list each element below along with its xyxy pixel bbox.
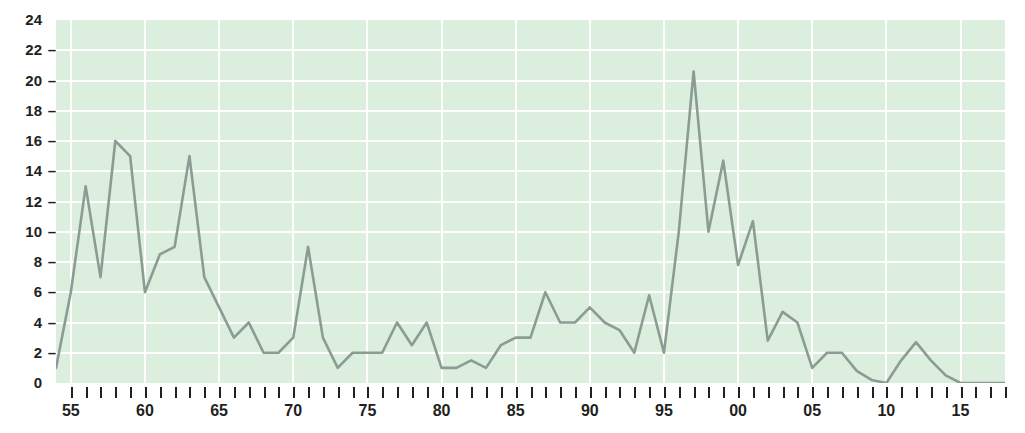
x-axis-tick-label: 85	[496, 402, 536, 420]
y-tick-mark: –	[42, 254, 56, 270]
x-axis-tick-label: 90	[570, 402, 610, 420]
x-axis-tick	[160, 387, 162, 398]
x-axis-tick	[679, 387, 681, 398]
x-axis-tick	[175, 387, 177, 398]
x-axis-tick	[931, 387, 933, 398]
x-axis-tick	[397, 387, 399, 398]
y-tick-mark: –	[42, 42, 56, 58]
x-axis-tick-label: 15	[941, 402, 981, 420]
x-axis-tick	[130, 387, 132, 398]
x-axis-tick	[471, 387, 473, 398]
y-tick-value: 20	[25, 73, 42, 89]
x-axis-tick	[145, 387, 147, 398]
y-axis-tick-label: 2–	[0, 345, 56, 361]
x-axis-tick	[204, 387, 206, 398]
y-tick-value: 10	[25, 224, 42, 240]
y-tick-value: 14	[25, 163, 42, 179]
x-axis-tick	[946, 387, 948, 398]
y-tick-mark: –	[42, 194, 56, 210]
y-tick-value: 4	[34, 315, 42, 331]
x-axis-tick	[531, 387, 533, 398]
y-tick-value: 6	[34, 284, 42, 300]
x-axis-tick-label: 55	[51, 402, 91, 420]
x-axis: 55606570758085909500051015	[0, 383, 1025, 433]
x-axis-tick	[412, 387, 414, 398]
y-axis-tick-label: 18–	[0, 103, 56, 119]
x-axis-tick	[738, 387, 740, 398]
x-axis-tick	[456, 387, 458, 398]
y-axis-tick-label: 20–	[0, 73, 56, 89]
y-tick-value: 8	[34, 254, 42, 270]
x-axis-tick	[545, 387, 547, 398]
y-axis-tick-label: 14–	[0, 163, 56, 179]
x-axis-tick-label: 05	[792, 402, 832, 420]
x-axis-tick	[1005, 387, 1007, 398]
y-tick-mark: –	[42, 103, 56, 119]
x-axis-tick	[961, 387, 963, 398]
x-axis-tick	[827, 387, 829, 398]
x-axis-tick	[71, 387, 73, 398]
x-axis-tick-label: 00	[718, 402, 758, 420]
x-axis-tick	[278, 387, 280, 398]
plot-area	[56, 20, 1005, 383]
y-tick-value: 16	[25, 133, 42, 149]
x-axis-tick	[264, 387, 266, 398]
y-axis-tick-label: 22–	[0, 42, 56, 58]
x-axis-tick	[901, 387, 903, 398]
y-axis-tick-label: 8–	[0, 254, 56, 270]
y-tick-value: 12	[25, 194, 42, 210]
y-tick-value: 18	[25, 103, 42, 119]
x-axis-tick	[694, 387, 696, 398]
x-axis-tick	[990, 387, 992, 398]
series-line-1	[56, 20, 1005, 383]
x-axis-tick	[916, 387, 918, 398]
y-tick-mark: –	[42, 133, 56, 149]
x-axis-tick	[975, 387, 977, 398]
y-tick-mark: –	[42, 163, 56, 179]
x-axis-tick	[649, 387, 651, 398]
x-axis-tick	[708, 387, 710, 398]
x-axis-tick-label: 65	[199, 402, 239, 420]
x-axis-tick	[783, 387, 785, 398]
series-polyline	[56, 71, 1005, 383]
x-axis-tick	[560, 387, 562, 398]
x-axis-tick	[857, 387, 859, 398]
y-tick-mark: –	[42, 345, 56, 361]
x-axis-tick	[100, 387, 102, 398]
x-axis-tick	[664, 387, 666, 398]
y-axis-tick-label: 4–	[0, 315, 56, 331]
chart-root: 02–4–6–8–10–12–14–16–18–20–22–24 5560657…	[0, 0, 1025, 433]
x-axis-tick	[797, 387, 799, 398]
x-axis-tick	[575, 387, 577, 398]
x-axis-tick	[234, 387, 236, 398]
x-axis-tick-label: 70	[273, 402, 313, 420]
x-axis-tick	[634, 387, 636, 398]
y-tick-mark: –	[42, 284, 56, 300]
x-axis-tick	[353, 387, 355, 398]
x-axis-tick	[605, 387, 607, 398]
x-axis-tick	[753, 387, 755, 398]
x-axis-tick	[590, 387, 592, 398]
x-axis-tick	[723, 387, 725, 398]
x-axis-tick	[842, 387, 844, 398]
x-axis-tick	[886, 387, 888, 398]
x-axis-tick	[427, 387, 429, 398]
y-tick-mark: –	[42, 224, 56, 240]
x-axis-tick	[115, 387, 117, 398]
x-axis-tick-label: 10	[866, 402, 906, 420]
y-axis-tick-label: 16–	[0, 133, 56, 149]
y-tick-mark: –	[42, 73, 56, 89]
x-axis-tick	[249, 387, 251, 398]
x-axis-tick	[308, 387, 310, 398]
y-axis-tick-label: 10–	[0, 224, 56, 240]
x-axis-tick	[219, 387, 221, 398]
x-axis-tick	[338, 387, 340, 398]
x-axis-tick	[812, 387, 814, 398]
x-axis-tick	[323, 387, 325, 398]
x-axis-tick-label: 60	[125, 402, 165, 420]
x-axis-tick	[872, 387, 874, 398]
x-axis-tick	[367, 387, 369, 398]
y-axis-tick-label: 12–	[0, 194, 56, 210]
y-tick-value: 2	[34, 345, 42, 361]
x-axis-tick	[382, 387, 384, 398]
